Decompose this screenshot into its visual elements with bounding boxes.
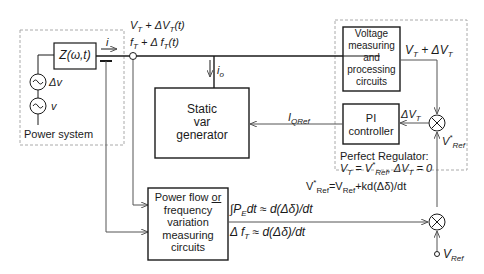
static-var-generator-label: Staticvargenerator: [155, 103, 249, 142]
vref-label: VRef: [443, 248, 463, 260]
measured-voltage-label: VT + ΔVT: [405, 44, 453, 56]
vref-star-label: V*Ref: [442, 135, 465, 147]
vref-star-equation: V*Ref=VRef+kd(Δδ)/dt: [306, 180, 406, 192]
power-system-label: Power system: [24, 128, 93, 140]
power-flow-label: Power flow or frequencyvariationmeasurin…: [148, 191, 228, 254]
current-label: i: [106, 36, 108, 48]
bus-node: [130, 53, 137, 60]
perfect-regulator-title: Perfect Regulator:: [340, 150, 429, 162]
iqref-label: IQRef: [288, 111, 310, 123]
source-delta-label: Δv: [49, 76, 62, 88]
bus-voltage-label: VT + ΔVT(t): [130, 19, 185, 31]
vref-terminal: [435, 252, 440, 257]
bus-frequency-label: fT + Δ fT(t): [130, 36, 179, 48]
pi-controller-label: PIcontroller: [343, 112, 399, 137]
frequency-deviation-label: Δ fT ≈ d(Δδ)/dt: [230, 226, 305, 238]
voltage-measuring-label: Voltagemeasuringandprocessingcircuits: [343, 28, 400, 88]
perfect-regulator-equation: VT = V*Ref, ΔVT = 0: [340, 162, 432, 174]
source-label: v: [51, 100, 57, 112]
delta-vt-label: ΔVT: [401, 108, 421, 120]
power-integral-label: ∫PEdt ≈ d(Δδ)/dt: [230, 203, 313, 215]
impedance-label: Z(ω,t): [54, 49, 96, 62]
output-current-label: io: [217, 64, 224, 76]
